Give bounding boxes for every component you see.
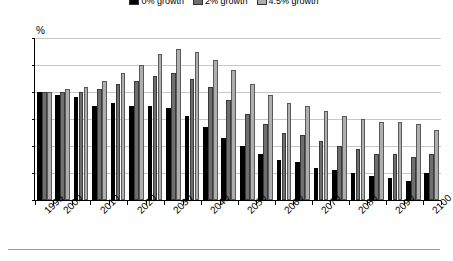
bar-group <box>220 38 238 200</box>
bar <box>176 49 181 200</box>
y-tick-mark <box>32 38 35 39</box>
legend-label-1: 2% growth <box>205 0 248 6</box>
bar <box>398 122 403 200</box>
bar <box>134 81 139 200</box>
bar <box>42 92 47 200</box>
y-tick-mark <box>32 173 35 174</box>
bar-group <box>127 38 145 200</box>
bar <box>171 73 176 200</box>
bar-group <box>367 38 385 200</box>
bar <box>263 124 268 200</box>
bar <box>121 73 126 200</box>
bar <box>324 111 329 200</box>
legend-swatch-icon-2 <box>257 0 267 5</box>
bar <box>102 81 107 200</box>
bar-group <box>386 38 404 200</box>
bar <box>282 133 287 201</box>
bar <box>153 76 158 200</box>
bar <box>213 60 218 200</box>
y-axis-unit-label: % <box>36 26 45 36</box>
bar-group <box>275 38 293 200</box>
bar <box>300 135 305 200</box>
bar <box>221 138 226 200</box>
bar <box>60 92 65 200</box>
bar <box>277 160 282 201</box>
bar <box>203 127 208 200</box>
bar <box>74 97 79 200</box>
legend-entry-0: 0% growth <box>129 0 184 6</box>
x-tick-mark <box>275 201 276 205</box>
bar <box>84 87 89 200</box>
bar-group <box>146 38 164 200</box>
y-tick-mark <box>32 119 35 120</box>
bar-group <box>164 38 182 200</box>
legend-label-2: 4.5% growth <box>269 0 319 6</box>
bar <box>268 95 273 200</box>
legend-swatch-icon-1 <box>193 0 203 5</box>
bar <box>190 79 195 201</box>
bar <box>139 65 144 200</box>
x-tick-mark <box>35 201 36 205</box>
bar <box>245 114 250 200</box>
bar-group <box>238 38 256 200</box>
bar <box>148 106 153 201</box>
bar <box>116 84 121 200</box>
x-tick-mark <box>201 201 202 205</box>
bar <box>416 124 421 200</box>
plot-frame: 00.511.522.53 19952000201020202030204020… <box>34 38 441 201</box>
plot-area <box>35 38 441 200</box>
bar <box>208 87 213 200</box>
bar <box>342 116 347 200</box>
bar-group <box>312 38 330 200</box>
legend-label-0: 0% growth <box>141 0 184 6</box>
footer-divider <box>8 249 440 250</box>
bar-group <box>35 38 53 200</box>
bar <box>97 89 102 200</box>
bar <box>79 92 84 200</box>
bar <box>379 122 384 200</box>
bar-group <box>330 38 348 200</box>
bar-group <box>53 38 71 200</box>
bar <box>388 178 393 200</box>
bar-group <box>423 38 441 200</box>
chart-legend: 0% growth 2% growth 4.5% growth <box>0 0 448 7</box>
bar-group <box>256 38 274 200</box>
x-tick-mark <box>423 201 424 205</box>
bar <box>429 154 434 200</box>
x-tick-mark <box>386 201 387 205</box>
y-tick-mark <box>32 65 35 66</box>
bar <box>337 146 342 200</box>
x-tick-mark <box>90 201 91 205</box>
bar <box>55 95 60 200</box>
bar <box>319 141 324 200</box>
bar-group <box>404 38 422 200</box>
bar-group <box>201 38 219 200</box>
legend-entry-2: 4.5% growth <box>257 0 319 6</box>
bar <box>65 89 70 200</box>
bar <box>305 106 310 201</box>
bar <box>351 173 356 200</box>
bar <box>356 149 361 200</box>
bar <box>361 119 366 200</box>
bar <box>111 103 116 200</box>
bar <box>47 92 52 200</box>
bar-group <box>72 38 90 200</box>
x-tick-mark <box>164 201 165 205</box>
bar <box>226 100 231 200</box>
bar <box>231 70 236 200</box>
bar-group <box>349 38 367 200</box>
bar <box>250 84 255 200</box>
bar-group <box>109 38 127 200</box>
bar-group <box>183 38 201 200</box>
x-tick-mark <box>312 201 313 205</box>
legend-swatch-icon-0 <box>129 0 139 5</box>
y-tick-mark <box>32 92 35 93</box>
y-tick-mark <box>32 146 35 147</box>
bar <box>185 116 190 200</box>
bar <box>240 146 245 200</box>
bar <box>195 52 200 201</box>
bar <box>158 54 163 200</box>
x-tick-mark <box>238 201 239 205</box>
bar <box>129 106 134 201</box>
